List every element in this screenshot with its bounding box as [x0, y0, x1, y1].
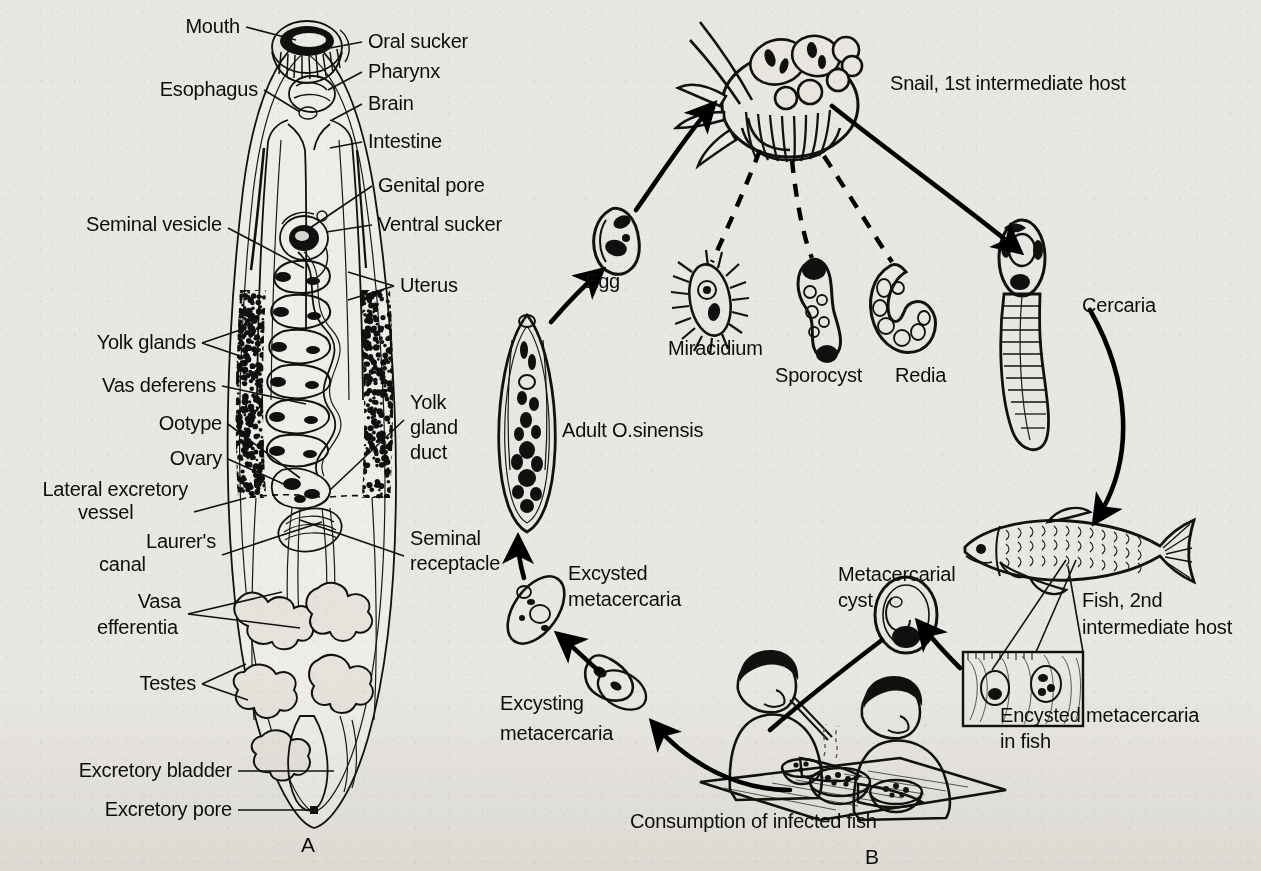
scientific-figure: MouthOral suckerPharynxEsophagusBrainInt… [0, 0, 1261, 871]
label-miracidium: Miracidium [668, 337, 763, 359]
arrow-cyst-to-people [770, 640, 882, 730]
label-redia: Redia [895, 364, 947, 386]
panel-b-leader-lines [992, 560, 1083, 670]
label-adult-o-sinensis: Adult O.sinensis [562, 419, 704, 441]
label-egg: Egg [585, 270, 620, 292]
arrow-excysted-to-adult [518, 540, 524, 578]
arrow-snail-to-cercaria [832, 106, 1018, 250]
panel-letter-b: B [865, 845, 879, 868]
snail-illustration [676, 22, 862, 166]
label-snail-host: Snail, 1st intermediate host [890, 72, 1126, 94]
egg-illustration [594, 208, 640, 274]
label-excysted-metacercaria-1: Excysted [568, 562, 648, 584]
life-cycle-arrows [518, 106, 1123, 790]
arrow-snail-to-redia [824, 156, 892, 262]
label-metacercarial-cyst-2: cyst [838, 589, 873, 611]
label-fish-host-2: intermediate host [1082, 616, 1233, 638]
adult-fluke-small [499, 315, 556, 532]
panel-b-life-cycle: Snail, 1st intermediate hostEggMiracidiu… [0, 0, 1261, 871]
excysting-metacercaria-illustration [585, 656, 653, 718]
arrow-excysting-to-excysted [560, 636, 600, 672]
label-cercaria: Cercaria [1082, 294, 1157, 316]
metacercarial-cyst-illustration [875, 577, 937, 653]
label-consumption: Consumption of infected fish [630, 810, 877, 832]
arrow-snail-to-miracidium [712, 150, 760, 262]
label-fish-host-1: Fish, 2nd [1082, 589, 1162, 611]
redia-illustration [871, 264, 936, 352]
people-eating-illustration [700, 650, 1006, 820]
label-excysting-metacercaria-2: metacercaria [500, 722, 614, 744]
cercaria-illustration [999, 220, 1049, 450]
label-sporocyst: Sporocyst [775, 364, 863, 386]
arrow-cercaria-to-fish [1090, 310, 1123, 520]
label-metacercarial-cyst-1: Metacercarial [838, 563, 955, 585]
label-excysted-metacercaria-2: metacercaria [568, 588, 682, 610]
label-encysted-metacercaria-2: in fish [1000, 730, 1051, 752]
label-excysting-metacercaria-1: Excysting [500, 692, 584, 714]
arrow-snail-to-sporocyst [792, 160, 812, 258]
label-encysted-metacercaria-1: Encysted metacercaria [1000, 704, 1200, 726]
fish-illustration [965, 508, 1194, 594]
sporocyst-illustration [798, 259, 841, 363]
